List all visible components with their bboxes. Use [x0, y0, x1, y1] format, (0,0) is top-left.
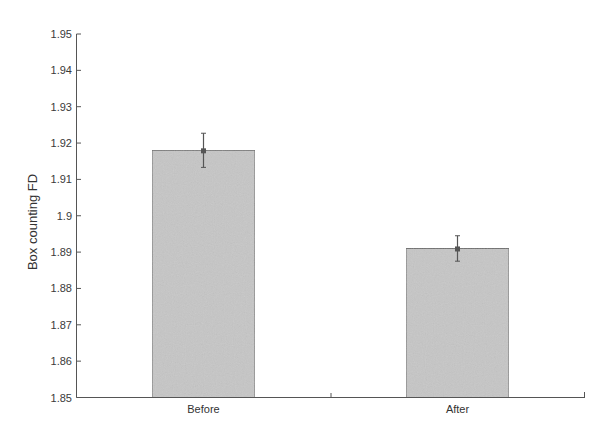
mean-marker	[201, 148, 206, 153]
y-tick-label: 1.86	[51, 355, 72, 367]
bars-group	[152, 150, 509, 397]
y-tick-label: 1.91	[51, 173, 72, 185]
bar-chart: 1.851.861.871.881.891.91.911.921.931.941…	[0, 0, 608, 427]
x-category-label: After	[446, 403, 470, 415]
y-tick-label: 1.94	[51, 64, 72, 76]
y-tick-label: 1.93	[51, 101, 72, 113]
y-tick-label: 1.85	[51, 392, 72, 404]
y-tick-label: 1.92	[51, 137, 72, 149]
mean-marker	[455, 246, 460, 251]
y-tick-label: 1.88	[51, 282, 72, 294]
bar-before	[152, 150, 255, 397]
y-axis-title: Box counting FD	[25, 174, 40, 270]
y-tick-label: 1.95	[51, 28, 72, 40]
y-tick-label: 1.89	[51, 246, 72, 258]
x-labels-group: BeforeAfter	[187, 403, 469, 415]
bar-after	[406, 248, 509, 397]
y-tick-label: 1.9	[57, 210, 72, 222]
x-category-label: Before	[187, 403, 219, 415]
y-tick-label: 1.87	[51, 319, 72, 331]
